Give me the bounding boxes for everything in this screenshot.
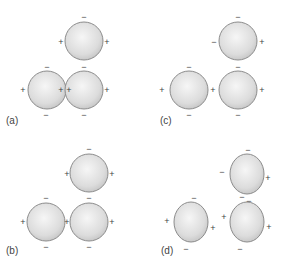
minus-charge-sign: − [246,196,251,206]
sphere [219,71,257,109]
minus-charge-sign: − [235,110,240,120]
plus-charge-sign: + [58,37,63,47]
minus-charge-sign: − [81,62,86,72]
minus-charge-sign: − [191,193,196,203]
sphere [70,154,108,192]
plus-charge-sign: + [58,85,63,95]
panel-c: −−+−++−−+−(c) [159,12,264,126]
minus-charge-sign: − [86,144,91,154]
plus-charge-sign: + [210,223,215,233]
minus-charge-sign: − [211,37,216,47]
sphere [27,203,65,241]
minus-charge-sign: − [219,167,224,177]
minus-charge-sign: − [186,110,191,120]
minus-charge-sign: − [239,192,244,202]
plus-charge-sign: + [265,173,270,183]
panel-label: (a) [6,115,18,126]
minus-charge-sign: − [81,110,86,120]
sphere [219,22,257,60]
minus-charge-sign: − [81,12,86,22]
sphere [174,202,208,242]
sphere [230,154,264,194]
plus-charge-sign: + [259,85,264,95]
plus-charge-sign: + [266,222,271,232]
minus-charge-sign: − [43,242,48,252]
charged-spheres-diagram: −++−++−−++−(a)−−+−++−−+−(c)−++−++−−+−(b)… [0,0,288,270]
panel-d: −−+−++−−−++−(d) [161,145,272,256]
minus-charge-sign: − [186,62,191,72]
plus-charge-sign: + [259,37,264,47]
sphere [70,203,108,241]
minus-charge-sign: − [245,145,250,155]
minus-charge-sign: − [86,242,91,252]
minus-charge-sign: − [43,110,48,120]
sphere [170,71,208,109]
plus-charge-sign: + [20,217,25,227]
panel-a: −++−++−−++−(a) [6,12,110,126]
panels-container: −++−++−−++−(a)−−+−++−−+−(c)−++−++−−+−(b)… [6,12,272,256]
minus-charge-sign: − [44,62,49,72]
panel-label: (b) [6,245,18,256]
minus-charge-sign: − [235,62,240,72]
plus-charge-sign: + [64,169,69,179]
minus-charge-sign: − [183,244,188,254]
plus-charge-sign: + [66,85,71,95]
minus-charge-sign: − [235,12,240,22]
plus-charge-sign: + [64,217,69,227]
sphere [65,22,103,60]
plus-charge-sign: + [221,212,226,222]
minus-charge-sign: − [86,193,91,203]
panel-b: −++−++−−+−(b) [6,144,115,256]
panel-label: (c) [160,115,172,126]
minus-charge-sign: − [43,193,48,203]
plus-charge-sign: + [109,217,114,227]
plus-charge-sign: + [109,169,114,179]
plus-charge-sign: + [104,37,109,47]
plus-charge-sign: + [159,85,164,95]
plus-charge-sign: + [210,85,215,95]
plus-charge-sign: + [20,85,25,95]
plus-charge-sign: + [164,216,169,226]
sphere [230,202,264,242]
panel-label: (d) [161,245,173,256]
minus-charge-sign: − [237,244,242,254]
plus-charge-sign: + [104,85,109,95]
